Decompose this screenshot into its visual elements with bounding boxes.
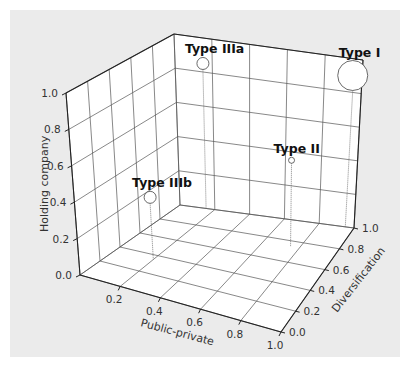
x-axis-label: Public-private [139,316,215,348]
y-tick-label: 1.0 [362,222,379,234]
data-point [338,61,368,91]
point-label: Type IIIb [132,175,192,190]
x-tick-label: 0.8 [226,328,243,340]
z-axis-label: Holding company [38,135,51,232]
z-tick-label: 0.4 [50,196,67,208]
x-tick-label: 0.4 [146,305,163,317]
point-label: Type I [339,45,381,60]
y-axis-label: Diversification [329,245,388,315]
y-tick-label: 0.2 [304,305,321,317]
chart-3d-scatter: 0.00.20.40.60.81.00.20.40.60.81.00.00.20… [0,0,409,367]
y-tick-label: 0.4 [318,284,335,296]
z-tick-label: 0.8 [44,123,61,135]
z-tick-label: 0.0 [55,269,72,281]
point-label: Type IIIa [185,41,244,56]
y-tick-label: 0.0 [289,326,306,338]
z-tick-label: 0.2 [52,233,69,245]
data-point [289,157,295,163]
x-tick-label: 0.6 [186,316,203,328]
y-tick-label: 0.8 [347,243,364,255]
data-point [197,57,209,69]
data-point [144,191,156,203]
point-label: Type II [274,141,320,156]
x-tick-label: 0.2 [106,293,123,305]
z-tick-label: 1.0 [41,87,58,99]
x-tick-label: 1.0 [267,339,284,351]
y-tick-label: 0.6 [333,264,350,276]
